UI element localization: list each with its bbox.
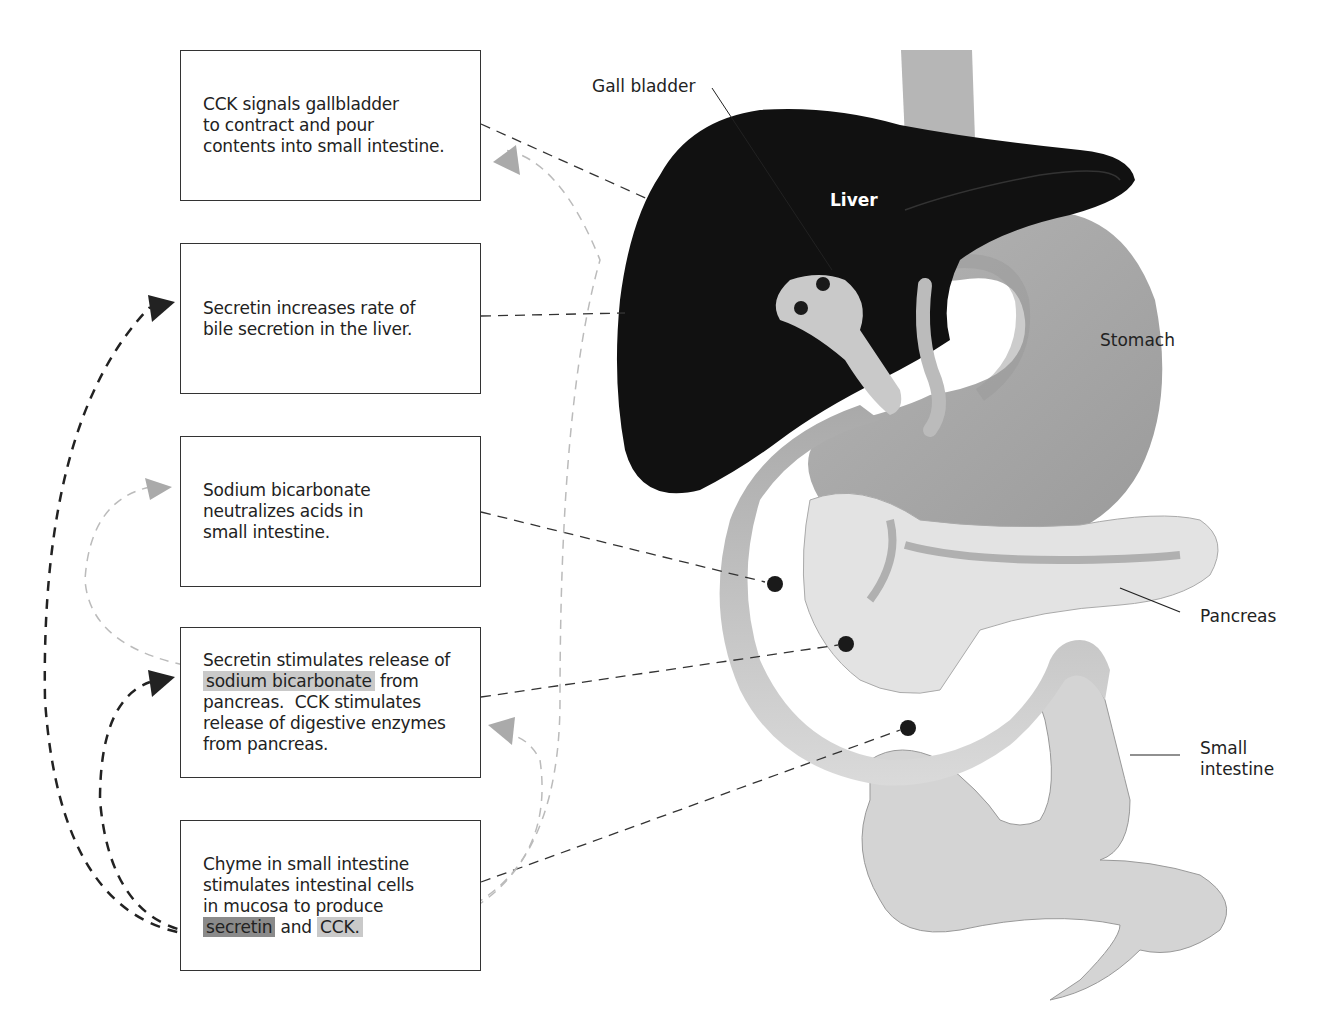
box-secretin-bile: Secretin increases rate of bile secretio…: [180, 243, 481, 394]
cck-arrowhead-gallbladder: [493, 145, 520, 175]
text-line: stimulates intestinal cells: [203, 875, 414, 896]
highlight-sodium-bicarbonate: sodium bicarbonate: [203, 671, 375, 691]
box-pancreas: Secretin stimulates release of sodium bi…: [180, 627, 481, 778]
text-line: Chyme in small intestine: [203, 854, 414, 875]
text-line: neutralizes acids in: [203, 501, 371, 522]
label-small-intestine: Small intestine: [1200, 738, 1274, 780]
secretin-arrowhead-pancreas: [148, 670, 175, 697]
text-line: CCK signals gallbladder: [203, 94, 445, 115]
label-gall-bladder: Gall bladder: [592, 76, 695, 97]
secretin-arrowhead-liver: [148, 295, 175, 322]
bicarbonate-arrowhead: [145, 478, 172, 500]
text-line: release of digestive enzymes: [203, 713, 450, 734]
secretin-arrows: [45, 307, 195, 935]
esophagus: [901, 50, 975, 140]
box-bicarbonate: Sodium bicarbonate neutralizes acids in …: [180, 436, 481, 587]
box-cck-gallbladder: CCK signals gallbladder to contract and …: [180, 50, 481, 201]
digestive-hormone-diagram: CCK signals gallbladder to contract and …: [0, 0, 1322, 1011]
label-pancreas: Pancreas: [1200, 606, 1276, 627]
box-chyme: Chyme in small intestine stimulates inte…: [180, 820, 481, 971]
text-line: contents into small intestine.: [203, 136, 445, 157]
text-line: pancreas. CCK stimulates: [203, 692, 450, 713]
label-stomach: Stomach: [1100, 330, 1175, 351]
text-line: Sodium bicarbonate: [203, 480, 371, 501]
text-line: Secretin stimulates release of: [203, 650, 450, 671]
highlight-secretin: secretin: [203, 917, 275, 937]
text-line: small intestine.: [203, 522, 371, 543]
highlight-cck: CCK.: [317, 917, 363, 937]
text-line: in mucosa to produce: [203, 896, 414, 917]
text-line: Secretin increases rate of: [203, 298, 415, 319]
label-liver: Liver: [830, 190, 878, 211]
small-intestine-loops: [862, 669, 1227, 1000]
cck-arrowhead-pancreas: [488, 717, 515, 745]
text-line: bile secretion in the liver.: [203, 319, 415, 340]
text-line: to contract and pour: [203, 115, 445, 136]
text-line: from pancreas.: [203, 734, 450, 755]
